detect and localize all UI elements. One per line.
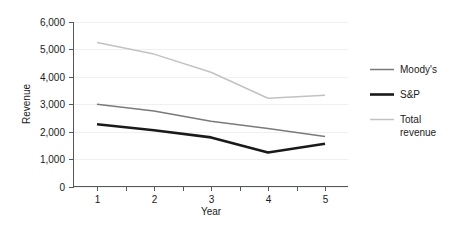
legend-label-line2: revenue <box>400 127 437 138</box>
y-axis-ticks <box>69 23 74 188</box>
chart-legend: Moody'sS&PTotalrevenue <box>370 64 437 138</box>
series-line-moody-s <box>97 104 325 136</box>
x-tick-label: 4 <box>266 194 272 205</box>
series-group <box>97 43 325 153</box>
series-line-total-revenue <box>97 43 325 99</box>
chart-canvas: 01,0002,0003,0004,0005,0006,000 12345 Re… <box>0 0 452 230</box>
legend-item: Totalrevenue <box>370 114 437 138</box>
y-axis-title: Revenue <box>21 84 32 124</box>
y-tick-label: 1,000 <box>40 154 65 165</box>
legend-label: Total <box>400 114 421 125</box>
y-tick-label: 5,000 <box>40 44 65 55</box>
x-axis-tick-labels: 12345 <box>95 194 329 205</box>
y-tick-label: 6,000 <box>40 17 65 28</box>
x-tick-label: 1 <box>95 194 101 205</box>
x-tick-label: 3 <box>209 194 215 205</box>
y-axis-tick-labels: 01,0002,0003,0004,0005,0006,000 <box>40 17 65 193</box>
x-tick-label: 5 <box>323 194 329 205</box>
gridlines-group <box>74 23 348 188</box>
legend-item: S&P <box>370 89 420 100</box>
legend-label: S&P <box>400 89 420 100</box>
x-tick-label: 2 <box>152 194 158 205</box>
x-axis-title: Year <box>201 206 222 217</box>
y-tick-label: 0 <box>59 182 65 193</box>
legend-item: Moody's <box>370 64 437 75</box>
y-tick-label: 3,000 <box>40 99 65 110</box>
revenue-line-chart: 01,0002,0003,0004,0005,0006,000 12345 Re… <box>0 0 452 230</box>
y-tick-label: 4,000 <box>40 72 65 83</box>
y-tick-label: 2,000 <box>40 127 65 138</box>
series-line-s-p <box>97 124 325 152</box>
legend-label: Moody's <box>400 64 437 75</box>
